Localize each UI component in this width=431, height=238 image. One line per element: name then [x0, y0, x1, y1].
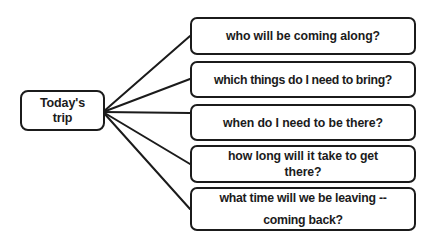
branch-node-2-label: which things do I need to bring? — [192, 73, 414, 87]
branch-node-5[interactable]: what time will we be leaving -- coming b… — [190, 187, 416, 231]
branch-node-1-label: who will be coming along? — [192, 29, 414, 43]
mind-map-diagram: Today's trip who will be coming along? w… — [0, 0, 431, 238]
connector-line-5 — [103, 112, 190, 209]
root-node-label: Today's trip — [22, 96, 103, 126]
connector-line-3 — [103, 112, 190, 113]
branch-node-3-label: when do I need to be there? — [192, 116, 414, 130]
branch-node-5-label: what time will we be leaving -- coming b… — [192, 187, 414, 231]
connector-line-1 — [103, 36, 190, 112]
branch-node-4-label: how long will it take to get there? — [192, 148, 414, 180]
connector-line-4 — [103, 112, 190, 164]
branch-node-2[interactable]: which things do I need to bring? — [190, 61, 416, 98]
branch-node-4[interactable]: how long will it take to get there? — [190, 145, 416, 183]
branch-node-1[interactable]: who will be coming along? — [190, 17, 416, 55]
root-node[interactable]: Today's trip — [20, 90, 105, 131]
branch-node-3[interactable]: when do I need to be there? — [190, 104, 416, 141]
connector-line-2 — [103, 79, 190, 112]
